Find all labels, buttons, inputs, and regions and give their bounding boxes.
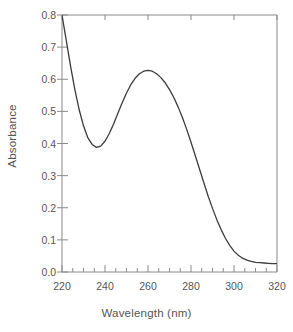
y-axis-tick-label: 0.3 xyxy=(28,171,56,181)
x-axis-tick-label: 240 xyxy=(88,281,122,291)
y-axis-tick-label: 0.7 xyxy=(28,42,56,52)
y-axis-tick-label: 0.8 xyxy=(28,10,56,20)
x-axis-tick-label: 260 xyxy=(131,281,165,291)
y-axis-title: Absorbance xyxy=(2,0,22,272)
x-axis-tick-label: 220 xyxy=(45,281,79,291)
absorbance-spectrum-figure: Absorbance Wavelength (nm) 0.00.10.20.30… xyxy=(0,0,293,332)
y-axis-tick-label: 0.1 xyxy=(28,235,56,245)
x-axis-tick-label: 320 xyxy=(260,281,293,291)
y-axis-tick-label: 0.4 xyxy=(28,139,56,149)
x-axis-title-label: Wavelength (nm) xyxy=(0,307,293,319)
plot-background xyxy=(62,15,277,272)
y-axis-tick-label: 0.5 xyxy=(28,106,56,116)
y-axis-tick-label: 0.2 xyxy=(28,203,56,213)
y-axis-tick-label: 0.6 xyxy=(28,74,56,84)
y-axis-tick-label: 0.0 xyxy=(28,267,56,277)
x-axis-tick-label: 300 xyxy=(217,281,251,291)
y-axis-title-label: Absorbance xyxy=(6,104,18,167)
x-axis-tick-label: 280 xyxy=(174,281,208,291)
